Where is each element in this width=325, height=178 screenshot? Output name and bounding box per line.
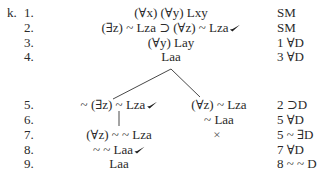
right-branch-line [171, 69, 200, 97]
line-number-3: 3. [24, 36, 34, 49]
line-number-9: 9. [24, 157, 34, 170]
formula-line-3: (∀y) Lay [148, 36, 194, 49]
check-mark-icon [146, 101, 157, 109]
justification-line-1: SM [277, 6, 296, 19]
line-number-4: 4. [24, 50, 34, 63]
line-number-2: 2. [24, 21, 34, 34]
right-branch-formula-5: (∀z) ~ Lza [191, 98, 246, 111]
formula-line-4: Laa [161, 50, 180, 63]
line-number-7: 7. [24, 128, 34, 141]
formula-text: (∃z) ~ Lza ⊃ (∀z) ~ Lza [101, 20, 228, 35]
problem-label: k. [7, 6, 17, 19]
line-number-1: 1. [24, 6, 34, 19]
left-branch-formula-9: Laa [109, 157, 128, 170]
justification-line-9: 8 ~ ~ D [277, 157, 317, 170]
formula-text: (∀y) Lay [148, 35, 194, 50]
formula-text: ~ ~ Laa [93, 142, 133, 157]
left-branch-formula-8: ~ ~ Laa [93, 143, 145, 156]
justification-line-6: 5 ∀D [277, 113, 304, 126]
justification-line-4: 3 ∀D [277, 50, 304, 63]
formula-line-2: (∃z) ~ Lza ⊃ (∀z) ~ Lza [101, 21, 240, 34]
x-closed-branch-icon: × [213, 128, 220, 141]
formula-text: Laa [161, 49, 180, 64]
left-branch-formula-7: (∀z) ~ ~ Lza [86, 128, 152, 141]
formula-text: ~ (∃z) ~ Lza [81, 97, 146, 112]
left-branch-line [113, 69, 171, 99]
left-branch-formula-5: ~ (∃z) ~ Lza [81, 98, 158, 111]
justification-line-8: 7 ∀D [277, 143, 304, 156]
check-mark-icon [230, 24, 241, 32]
formula-line-1: (∀x) (∀y) Lxy [134, 6, 207, 19]
justification-line-5: 2 ⊃D [277, 98, 307, 111]
line-number-5: 5. [24, 98, 34, 111]
justification-line-7: 5 ~ ∃D [277, 128, 313, 141]
justification-line-3: 1 ∀D [277, 36, 304, 49]
line-number-6: 6. [24, 113, 34, 126]
right-branch-formula-6: ~ Laa [204, 113, 234, 126]
formula-text: (∀x) (∀y) Lxy [134, 5, 207, 20]
line-number-8: 8. [24, 143, 34, 156]
justification-line-2: SM [277, 21, 296, 34]
check-mark-icon [134, 146, 145, 154]
